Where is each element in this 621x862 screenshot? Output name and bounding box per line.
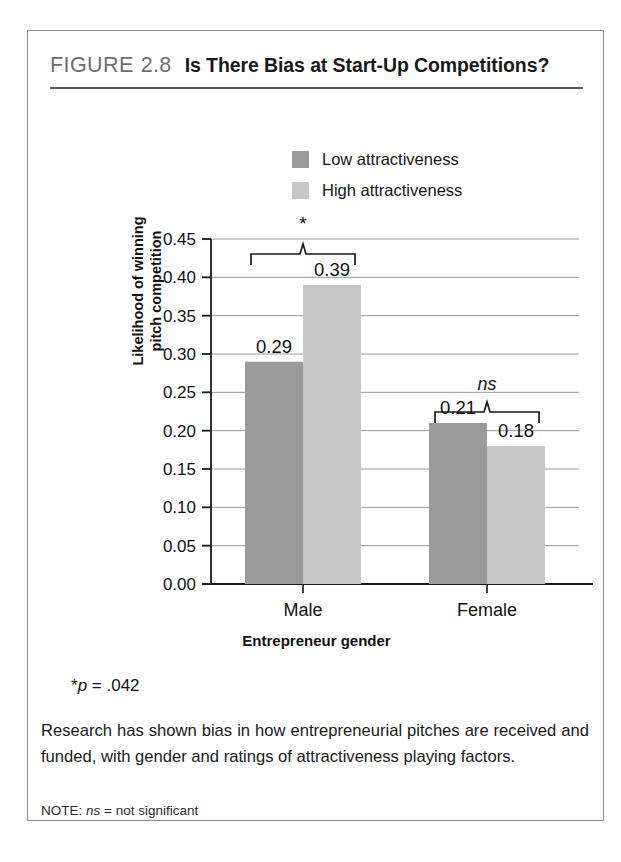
bar-value-label: 0.21 bbox=[440, 397, 476, 418]
y-axis-title-line2: pitch competition bbox=[147, 161, 165, 421]
p-value-number: = .042 bbox=[87, 676, 139, 695]
y-tick-label: 0.15 bbox=[163, 460, 196, 479]
legend-swatch-high-icon bbox=[292, 182, 309, 199]
note-prefix: NOTE: bbox=[41, 803, 86, 818]
x-tick-label-female: Female bbox=[457, 600, 517, 620]
y-axis-title: Likelihood of winning pitch competition bbox=[129, 161, 165, 421]
legend-label-high: High attractiveness bbox=[322, 181, 462, 200]
figure-panel: FIGURE 2.8 Is There Bias at Start-Up Com… bbox=[27, 30, 604, 821]
bar-male-high bbox=[303, 285, 361, 584]
legend-swatch-low-icon bbox=[292, 151, 309, 168]
y-tick-label: 0.30 bbox=[163, 345, 196, 364]
title-divider bbox=[50, 87, 583, 89]
y-tick-label: 0.10 bbox=[163, 498, 196, 517]
legend-item-low-attractiveness: Low attractiveness bbox=[292, 146, 462, 172]
y-tick-label: 0.45 bbox=[163, 230, 196, 249]
y-tick-label: 0.25 bbox=[163, 383, 196, 402]
y-tick-label: 0.05 bbox=[163, 537, 196, 556]
figure-header: FIGURE 2.8 Is There Bias at Start-Up Com… bbox=[50, 53, 583, 89]
bar-male-low bbox=[245, 362, 303, 584]
p-value-footnote: *p = .042 bbox=[71, 676, 140, 696]
bar-value-label: 0.18 bbox=[498, 420, 534, 441]
y-tick-label: 0.00 bbox=[163, 575, 196, 594]
note-abbrev: ns bbox=[86, 803, 100, 818]
p-value-symbol: p bbox=[78, 676, 87, 695]
note-definition: = not significant bbox=[100, 803, 198, 818]
chart-canvas: 0.450.400.350.300.250.200.150.100.050.00… bbox=[28, 31, 605, 651]
bar-female-low bbox=[429, 423, 487, 584]
legend-item-high-attractiveness: High attractiveness bbox=[292, 177, 462, 203]
x-tick-label-male: Male bbox=[283, 600, 322, 620]
y-tick-label: 0.20 bbox=[163, 422, 196, 441]
chart-legend: Low attractiveness High attractiveness bbox=[292, 146, 462, 208]
legend-label-low: Low attractiveness bbox=[322, 150, 459, 169]
bar-female-high bbox=[487, 446, 545, 584]
y-axis-title-line1: Likelihood of winning bbox=[129, 161, 147, 421]
figure-label: FIGURE bbox=[50, 53, 134, 78]
figure-title-line: FIGURE 2.8 Is There Bias at Start-Up Com… bbox=[50, 53, 583, 78]
significance-label: ns bbox=[477, 374, 496, 394]
significance-bracket bbox=[251, 244, 355, 265]
bar-value-label: 0.39 bbox=[314, 259, 350, 280]
significance-label: * bbox=[299, 213, 307, 234]
figure-note: NOTE: ns = not significant bbox=[41, 803, 581, 818]
significance-bracket bbox=[435, 402, 539, 423]
page-title: Is There Bias at Start-Up Competitions? bbox=[185, 54, 550, 77]
x-axis-title: Entrepreneur gender bbox=[28, 632, 605, 649]
figure-caption: Research has shown bias in how entrepren… bbox=[41, 718, 589, 770]
p-value-star: * bbox=[71, 676, 78, 695]
y-tick-label: 0.35 bbox=[163, 307, 196, 326]
figure-number: 2.8 bbox=[141, 53, 172, 78]
bar-value-label: 0.29 bbox=[256, 336, 292, 357]
y-tick-label: 0.40 bbox=[163, 268, 196, 287]
